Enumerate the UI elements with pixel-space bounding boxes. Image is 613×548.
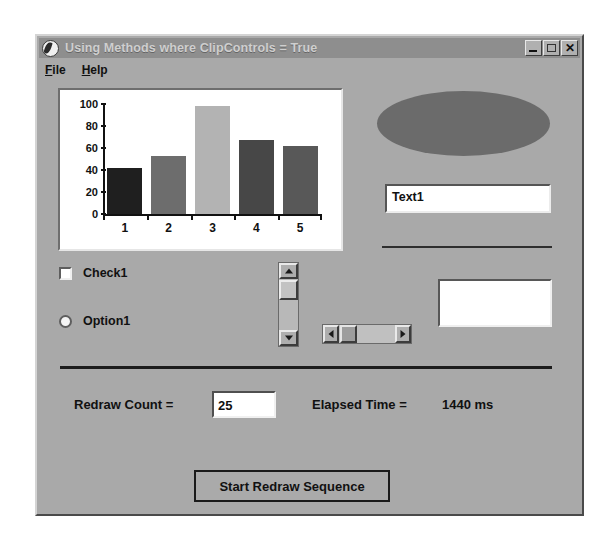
scroll-down-button[interactable] — [279, 330, 298, 346]
start-redraw-sequence-button[interactable]: Start Redraw Sequence — [194, 470, 390, 502]
elapsed-time-value: 1440 ms — [442, 397, 493, 412]
application-window: Using Methods where ClipControls = True … — [35, 34, 584, 516]
y-tick-mark — [101, 169, 106, 171]
menu-item-file[interactable]: File — [45, 63, 66, 77]
scroll-down-icon — [285, 336, 293, 341]
vb-app-icon — [42, 40, 59, 57]
redraw-count-input[interactable]: 25 — [212, 391, 276, 418]
vertical-scrollbar-thumb[interactable] — [279, 280, 298, 300]
chart-bar — [195, 106, 230, 214]
title-bar: Using Methods where ClipControls = True … — [39, 38, 580, 58]
chart-bar — [283, 146, 318, 214]
x-tick-mark — [278, 215, 280, 220]
scroll-up-button[interactable] — [279, 263, 298, 279]
y-tick-label: 0 — [92, 208, 98, 220]
x-tick-mark — [191, 215, 193, 220]
separator-line-right — [382, 246, 552, 248]
x-tick-label: 3 — [209, 221, 216, 235]
x-tick-mark — [103, 215, 105, 220]
scroll-left-icon — [329, 330, 334, 338]
ellipse-shape — [377, 91, 550, 156]
menu-bar: File Help — [39, 60, 580, 80]
scroll-up-icon — [285, 269, 293, 274]
blank-output-panel[interactable] — [438, 279, 552, 327]
option1-radio[interactable] — [59, 315, 72, 328]
x-tick-label: 4 — [253, 221, 260, 235]
status-row: Redraw Count = 25 Elapsed Time = 1440 ms — [37, 391, 582, 421]
y-tick-mark — [101, 125, 106, 127]
y-tick-mark — [101, 147, 106, 149]
check1-checkbox[interactable] — [59, 267, 72, 280]
scroll-right-icon — [401, 330, 406, 338]
chart-bar — [151, 156, 186, 214]
x-tick-mark — [320, 215, 322, 220]
x-tick-mark — [234, 215, 236, 220]
y-tick-label: 20 — [86, 186, 98, 198]
y-tick-mark — [101, 103, 106, 105]
menu-item-help[interactable]: Help — [82, 63, 108, 77]
x-tick-label: 5 — [297, 221, 304, 235]
redraw-count-label: Redraw Count = — [74, 397, 173, 412]
x-tick-label: 2 — [165, 221, 172, 235]
horizontal-scrollbar-thumb[interactable] — [340, 325, 357, 343]
bar-chart: 02040608010012345 — [60, 90, 341, 249]
vertical-scrollbar[interactable] — [278, 262, 299, 347]
horizontal-scrollbar[interactable] — [322, 324, 412, 344]
separator-line-main — [60, 366, 552, 369]
check1-label: Check1 — [83, 266, 127, 280]
x-tick-mark — [147, 215, 149, 220]
close-button[interactable]: ✕ — [561, 40, 578, 56]
x-tick-label: 1 — [122, 221, 129, 235]
y-tick-mark — [101, 191, 106, 193]
y-tick-label: 40 — [86, 164, 98, 176]
y-tick-label: 100 — [80, 98, 98, 110]
x-axis — [103, 214, 322, 216]
option1-label: Option1 — [83, 314, 130, 328]
chart-picture-box: 02040608010012345 — [58, 88, 343, 251]
window-title: Using Methods where ClipControls = True — [65, 41, 524, 55]
option1-row[interactable]: Option1 — [59, 314, 130, 328]
y-axis — [103, 104, 105, 214]
chart-bar — [239, 140, 274, 214]
check1-row[interactable]: Check1 — [59, 266, 127, 280]
text1-input[interactable]: Text1 — [385, 184, 551, 213]
chart-bar — [107, 168, 142, 214]
elapsed-time-label: Elapsed Time = — [312, 397, 407, 412]
y-tick-label: 60 — [86, 142, 98, 154]
minimize-button[interactable] — [525, 40, 542, 56]
scroll-left-button[interactable] — [323, 325, 339, 343]
maximize-button[interactable] — [543, 40, 560, 56]
y-tick-labels: 020406080100 — [68, 90, 98, 249]
scroll-right-button[interactable] — [395, 325, 411, 343]
y-tick-label: 80 — [86, 120, 98, 132]
